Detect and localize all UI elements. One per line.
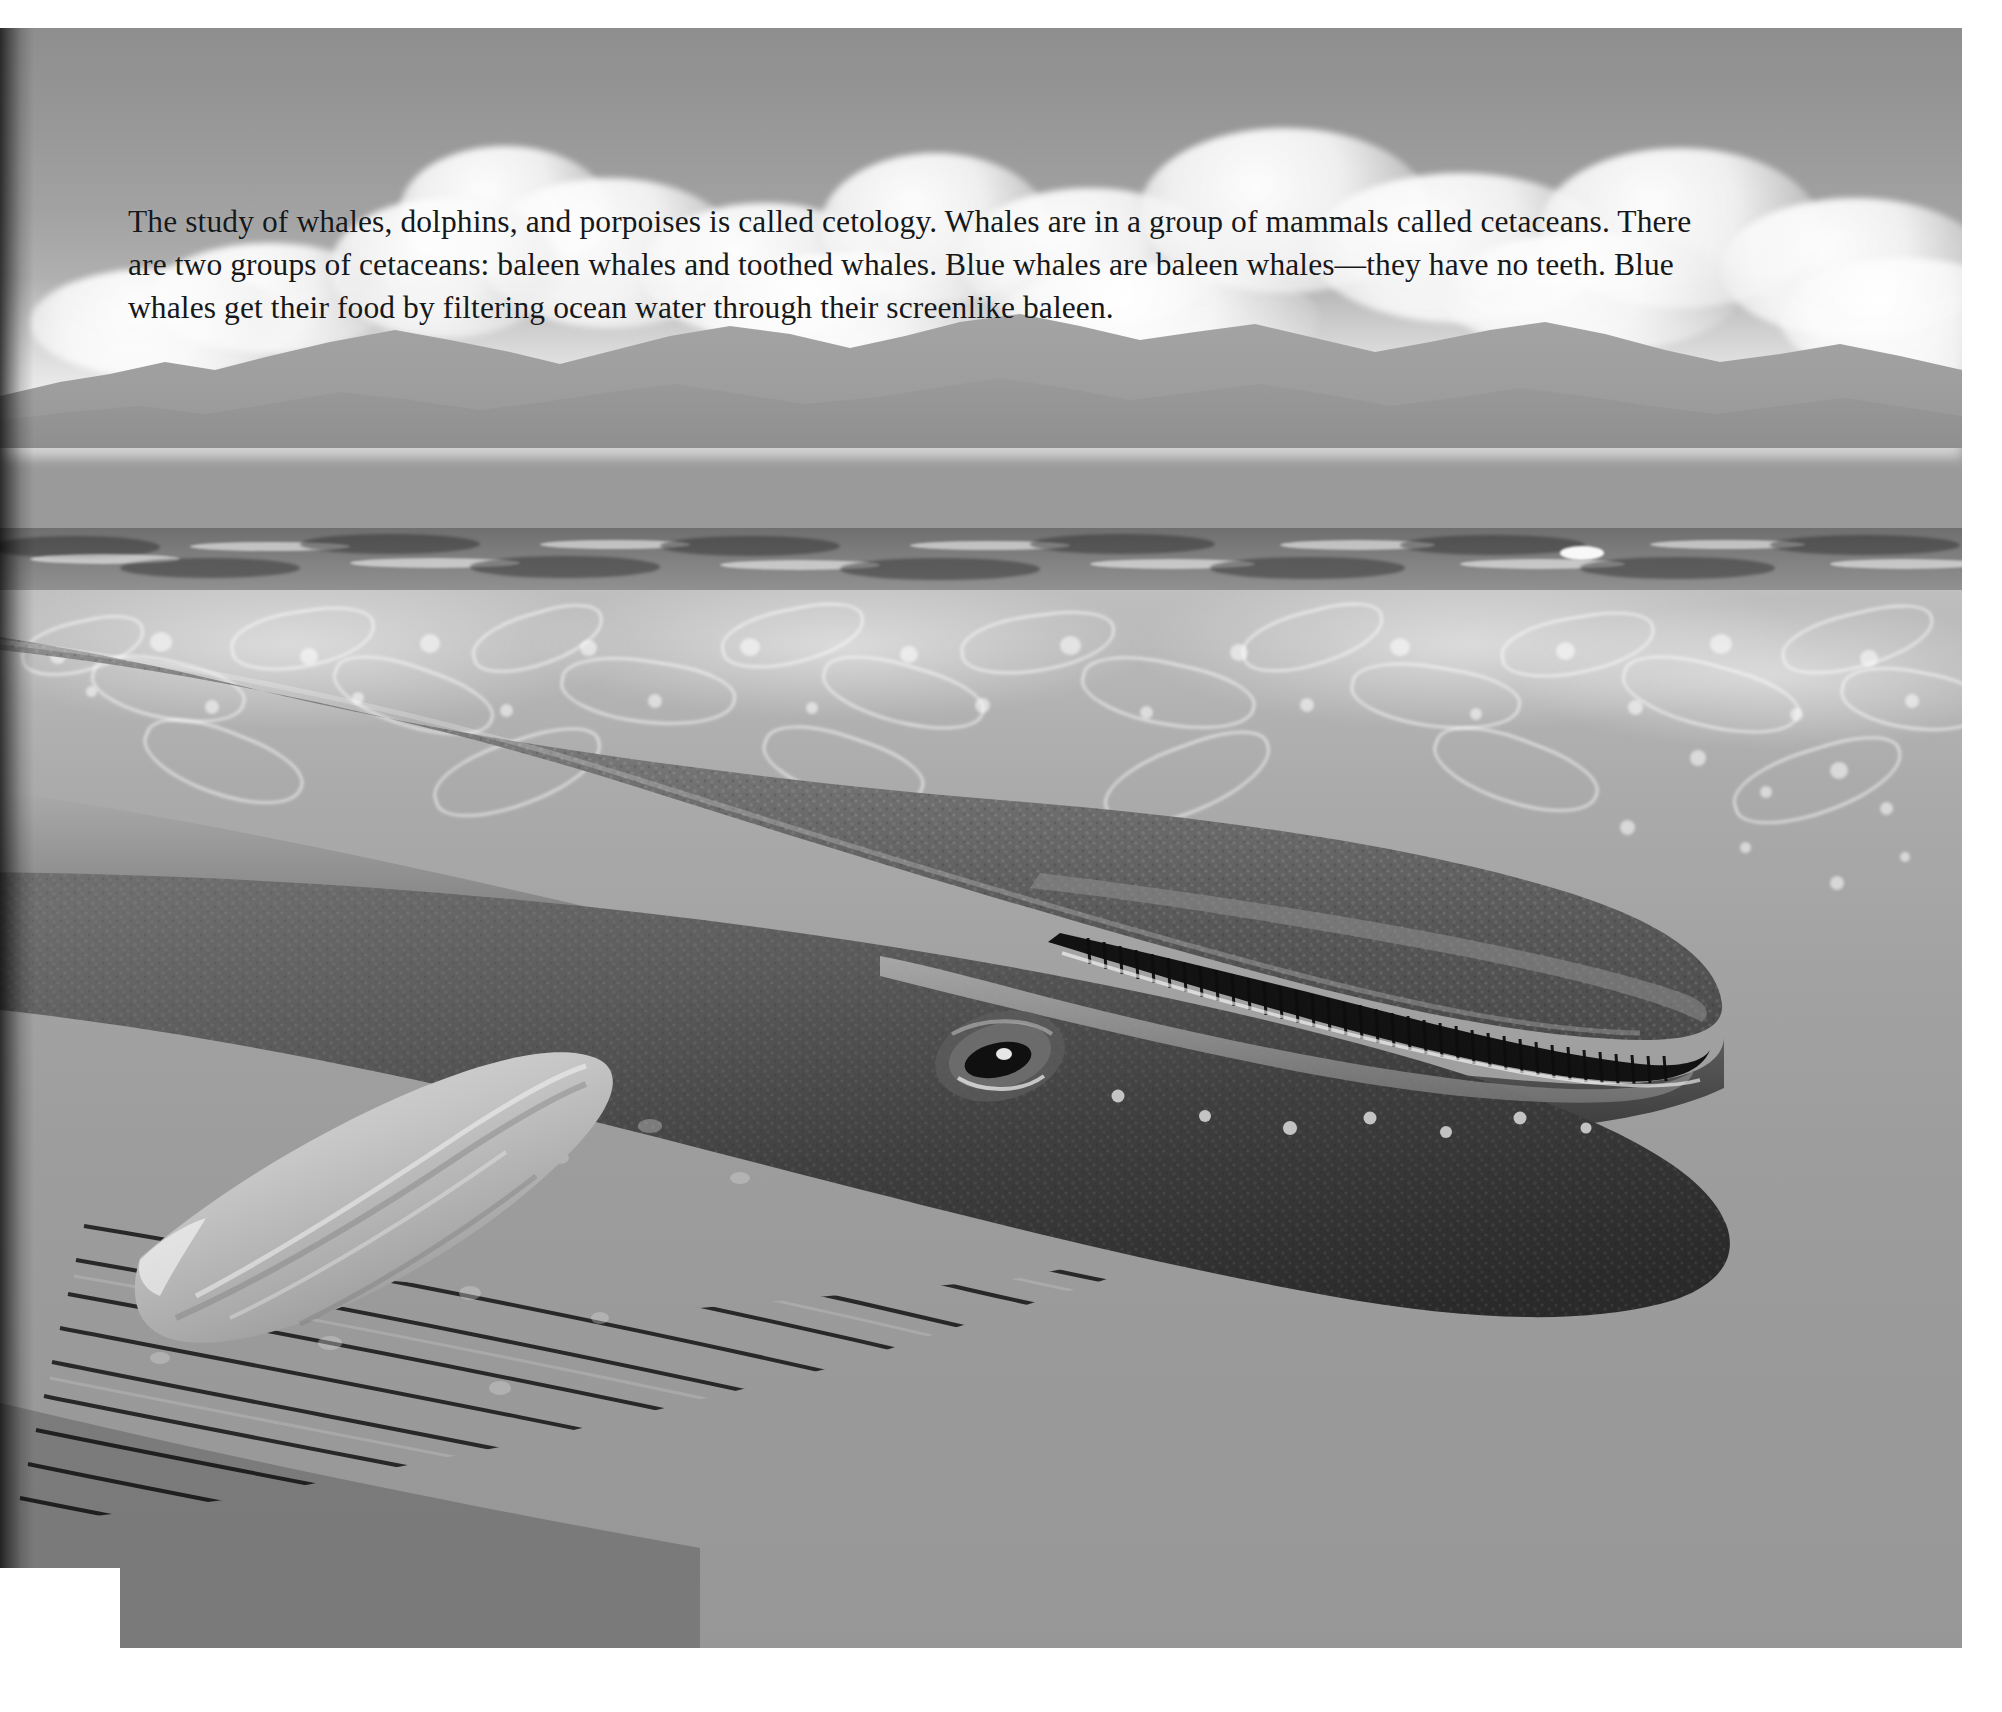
underwater-column bbox=[0, 590, 1962, 1648]
paper-corner bbox=[0, 1568, 120, 1648]
page-bottom-margin bbox=[0, 1648, 2002, 1712]
book-gutter-shadow bbox=[0, 28, 34, 1648]
page-right-margin bbox=[1962, 0, 2002, 1712]
page-top-margin bbox=[0, 0, 2002, 28]
book-page: The study of whales, dolphins, and porpo… bbox=[0, 0, 2002, 1712]
illustration-plate: The study of whales, dolphins, and porpo… bbox=[0, 28, 1962, 1648]
ocean-surface bbox=[0, 528, 1962, 590]
caption-paragraph: The study of whales, dolphins, and porpo… bbox=[128, 200, 1698, 329]
